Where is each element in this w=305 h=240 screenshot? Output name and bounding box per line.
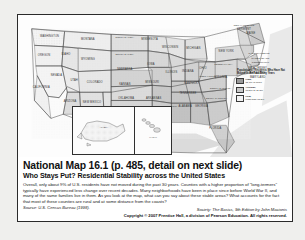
state-label: NORTH DAKOTA <box>115 36 134 38</box>
state-label: MONTANA <box>81 37 95 41</box>
alaska-inset: ALASKA <box>72 106 136 155</box>
state-label: NEW HAMPSHIRE <box>234 24 255 26</box>
state-label: VERMONT <box>237 27 251 31</box>
state-label: OREGON <box>38 53 50 57</box>
legend-item-high: High,11.6% or more <box>236 78 290 85</box>
state-label: WISCONSIN <box>162 45 178 49</box>
state-label: KENTUCKY <box>184 81 199 85</box>
state-label: CONNECTICUT <box>252 61 270 63</box>
state-label: MISSOURI <box>145 80 159 84</box>
page-title: National Map 16.1 (p. 485, detail on nex… <box>23 160 287 171</box>
state-label: UTAH <box>70 78 77 82</box>
legend-item-high-label: High,11.6% or more <box>246 78 262 84</box>
state-label: ALABAMA <box>179 104 192 108</box>
legend-item-average: Average,13.2% to 11.5% <box>236 86 290 93</box>
state-label: NEW YORK <box>219 49 234 53</box>
state-label: MICHIGAN <box>186 46 200 50</box>
state-label: IOWA <box>147 62 155 66</box>
map-figure: WASHINGTONOREGONIDAHOMONTANANORTH DAKOTA… <box>18 15 292 157</box>
alaska-map <box>73 107 135 154</box>
state-label: WEST VIRGINIA <box>199 75 218 77</box>
state-label: MASSACHUSETTS <box>249 52 271 54</box>
state-label: SOUTH DAKOTA <box>116 53 135 55</box>
state-label: INDIANA <box>182 69 194 73</box>
state-label: NEBRASKA <box>117 67 132 71</box>
page-subtitle: Who Stays Put? Residential Stability acr… <box>23 172 287 181</box>
high-swatch <box>236 78 244 84</box>
state-label: PENNSYLVANIA <box>214 63 232 65</box>
copyright-line: Copyright © 2007 Prentice Hall, a divisi… <box>23 213 287 218</box>
state-label: COLORADO <box>87 80 103 84</box>
average-swatch <box>236 87 244 93</box>
caption-block: National Map 16.1 (p. 485, detail on nex… <box>18 157 292 221</box>
state-label: TENNESSEE <box>179 91 196 95</box>
footer: Society: The Basics, 9th Edition by John… <box>23 207 287 218</box>
state-label: NEW MEXICO <box>83 100 101 104</box>
state-label: ARIZONA <box>64 99 77 103</box>
book-credit: Society: The Basics, 9th Edition by John… <box>23 207 287 212</box>
legend-title: Population of Residents Who Have Not Mov… <box>237 69 290 76</box>
state-label: WYOMING <box>81 57 95 61</box>
hawaii-map <box>135 107 171 154</box>
state-label: MINNESOTA <box>141 37 158 41</box>
state-label: WASHINGTON <box>40 34 59 38</box>
state-label: ARKANSAS <box>146 96 161 100</box>
state-label: NEVADA <box>51 73 62 77</box>
hawaii-inset: HAWAII <box>134 106 172 155</box>
legend-item-low: Low,Less than 13.2% <box>236 95 290 102</box>
state-label: GEORGIA <box>195 104 208 108</box>
state-label: KANSAS <box>119 82 130 86</box>
state-label: IDAHO <box>61 52 70 56</box>
body-paragraph: Overall, only about 9% of U.S. residents… <box>23 182 287 204</box>
legend-item-average-label: Average,13.2% to 11.5% <box>246 86 263 92</box>
state-label: ILLINOIS <box>166 70 178 74</box>
state-label: MAINE <box>246 31 255 35</box>
state-label: RHODE ISLAND <box>251 57 269 59</box>
state-label: OKLAHOMA <box>118 96 134 100</box>
map-legend: Population of Residents Who Have Not Mov… <box>236 69 290 104</box>
state-label: NORTH CAROLINA <box>210 87 232 89</box>
state-label: OHIO <box>199 66 206 70</box>
state-label: CALIFORNIA <box>33 85 50 89</box>
alaska-inset-label: ALASKA <box>73 126 135 128</box>
low-swatch <box>236 95 244 101</box>
legend-item-low-label: Low,Less than 13.2% <box>246 95 265 101</box>
hawaii-inset-label: HAWAII <box>135 136 171 138</box>
slide-frame: WASHINGTONOREGONIDAHOMONTANANORTH DAKOTA… <box>17 14 293 222</box>
state-label: FLORIDA <box>209 126 221 130</box>
state-label: SOUTH CAROLINA <box>206 97 228 99</box>
